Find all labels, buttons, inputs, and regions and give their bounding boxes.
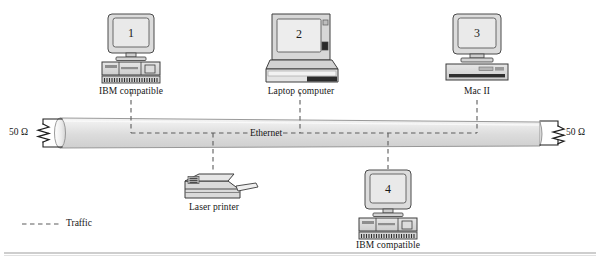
right-terminator-label: 50 Ω bbox=[566, 127, 585, 137]
node-3-number: 3 bbox=[474, 26, 480, 41]
left-terminator-label: 50 Ω bbox=[9, 127, 28, 137]
device-node-2 bbox=[266, 14, 338, 82]
node-4-label: IBM compatible bbox=[356, 240, 420, 251]
laser-printer-label: Laser printer bbox=[189, 202, 239, 213]
node-2-label: Laptop computer bbox=[268, 86, 335, 97]
ethernet-network-diagram: 1 2 3 4 IBM compatible Laptop computer M… bbox=[0, 0, 600, 263]
legend-traffic-label: Traffic bbox=[66, 218, 92, 228]
node-1-number: 1 bbox=[128, 26, 134, 41]
device-node-3 bbox=[446, 14, 508, 80]
device-laser-printer bbox=[185, 174, 258, 198]
node-4-number: 4 bbox=[385, 182, 391, 197]
ethernet-bus-label: Ethernet bbox=[250, 128, 282, 138]
device-node-4 bbox=[359, 170, 417, 239]
node-2-number: 2 bbox=[296, 27, 302, 42]
right-terminator-resistor bbox=[540, 121, 564, 145]
node-3-label: Mac II bbox=[464, 86, 490, 97]
node-1-label: IBM compatible bbox=[99, 86, 163, 97]
device-node-1 bbox=[102, 14, 160, 83]
